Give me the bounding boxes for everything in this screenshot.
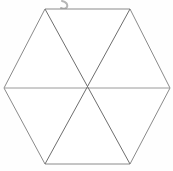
figure-canvas (0, 0, 173, 171)
hexagon-figure-svg (0, 0, 173, 171)
